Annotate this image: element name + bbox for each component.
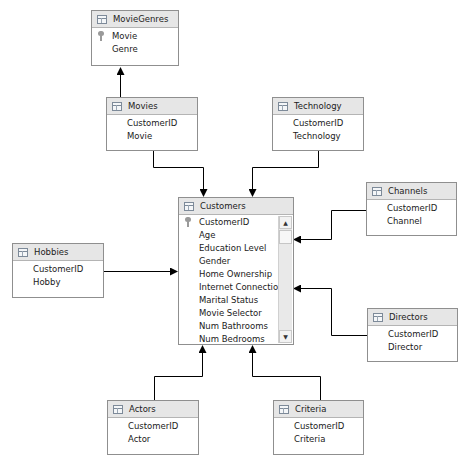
table-header[interactable]: Channels — [367, 183, 456, 200]
table-icon — [113, 405, 123, 414]
column-row[interactable]: Num Bedrooms — [179, 333, 293, 345]
column-row[interactable]: Education Level — [179, 242, 293, 255]
column-row[interactable]: CustomerID — [367, 202, 456, 215]
column-row[interactable]: Internet Connection — [179, 281, 293, 294]
table-customers[interactable]: Customers CustomerID Age Education Level… — [178, 197, 294, 345]
table-header[interactable]: Hobbies — [13, 244, 103, 261]
table-title: Technology — [294, 101, 342, 111]
column-row[interactable]: Director — [368, 341, 457, 354]
table-icon — [184, 202, 194, 211]
table-title: Directors — [389, 312, 428, 322]
column-row[interactable]: Home Ownership — [179, 268, 293, 281]
column-row[interactable]: Gender — [179, 255, 293, 268]
column-row[interactable]: Technology — [273, 130, 363, 143]
table-title: Hobbies — [34, 247, 68, 257]
column-row[interactable]: Actor — [108, 433, 198, 446]
column-row[interactable]: CustomerID — [179, 216, 293, 229]
table-title: Actors — [129, 404, 156, 414]
rel-technology-customers — [253, 150, 319, 196]
column-row[interactable]: Movie — [107, 130, 197, 143]
column-row[interactable]: Criteria — [274, 433, 363, 446]
vertical-scrollbar[interactable]: ▲ ▼ — [278, 216, 292, 343]
table-icon — [373, 313, 383, 322]
rel-channels-customers — [294, 211, 366, 240]
table-icon — [112, 102, 122, 111]
scroll-up-button[interactable]: ▲ — [279, 216, 292, 229]
column-row[interactable]: CustomerID — [13, 263, 103, 276]
table-title: Movies — [128, 101, 158, 111]
rel-movies-customers — [154, 150, 204, 196]
column-row[interactable]: Channel — [367, 215, 456, 228]
column-row[interactable]: Age — [179, 229, 293, 242]
table-icon — [372, 187, 382, 196]
table-header[interactable]: Customers — [179, 198, 293, 215]
table-actors[interactable]: Actors CustomerID Actor — [107, 400, 199, 455]
table-title: Customers — [200, 201, 246, 211]
table-criteria[interactable]: Criteria CustomerID Criteria — [273, 400, 364, 455]
table-movies[interactable]: Movies CustomerID Movie — [106, 97, 198, 151]
column-row[interactable]: Movie Selector — [179, 307, 293, 320]
scroll-thumb[interactable] — [279, 230, 292, 244]
column-row[interactable]: Genre — [92, 43, 178, 56]
column-row[interactable]: Marital Status — [179, 294, 293, 307]
table-moviegenres[interactable]: MovieGenres Movie Genre — [91, 10, 179, 66]
table-header[interactable]: Directors — [368, 309, 457, 326]
column-row[interactable]: CustomerID — [107, 117, 197, 130]
rel-directors-customers — [294, 289, 367, 336]
table-technology[interactable]: Technology CustomerID Technology — [272, 97, 364, 151]
column-row[interactable]: Hobby — [13, 276, 103, 289]
table-icon — [97, 15, 107, 24]
table-directors[interactable]: Directors CustomerID Director — [367, 308, 458, 362]
column-row[interactable]: CustomerID — [108, 420, 198, 433]
table-icon — [279, 405, 289, 414]
table-title: Criteria — [295, 404, 326, 414]
primary-key-icon — [185, 217, 191, 228]
table-title: MovieGenres — [113, 14, 168, 24]
rel-criteria-customers — [253, 346, 321, 400]
column-row[interactable]: CustomerID — [368, 328, 457, 341]
table-channels[interactable]: Channels CustomerID Channel — [366, 182, 457, 236]
column-row[interactable]: Num Bathrooms — [179, 320, 293, 333]
column-row[interactable]: Movie — [92, 30, 178, 43]
column-row[interactable]: CustomerID — [274, 420, 363, 433]
table-header[interactable]: Technology — [273, 98, 363, 115]
column-row[interactable]: CustomerID — [273, 117, 363, 130]
rel-actors-customers — [155, 346, 203, 400]
table-title: Channels — [388, 186, 427, 196]
table-hobbies[interactable]: Hobbies CustomerID Hobby — [12, 243, 104, 298]
table-header[interactable]: Movies — [107, 98, 197, 115]
table-header[interactable]: MovieGenres — [92, 11, 178, 28]
table-icon — [18, 248, 28, 257]
table-header[interactable]: Actors — [108, 401, 198, 418]
primary-key-icon — [98, 31, 104, 42]
scroll-down-button[interactable]: ▼ — [279, 330, 292, 343]
table-icon — [278, 102, 288, 111]
table-header[interactable]: Criteria — [274, 401, 363, 418]
